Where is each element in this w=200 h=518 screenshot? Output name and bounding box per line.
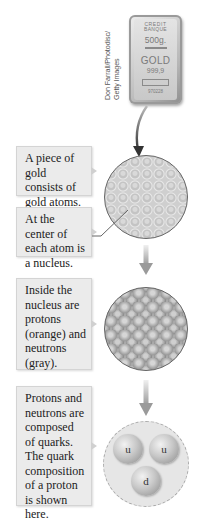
down-arrow-icon [139,380,153,416]
gold-bar-metal: GOLD [134,56,177,66]
gold-bar-weight: 500g. [134,36,177,45]
proton-circle: u u d [103,421,189,507]
gold-bar-text-line2: BANQUE [134,27,177,32]
gold-bar-rule [145,47,167,49]
caption-text: A piece of gold consists of gold atoms. [25,151,81,209]
down-arrow-icon [139,245,153,275]
caption-text: Protons and neutrons are composed of qua… [25,391,84,518]
caption-text: Inside the nucleus are protons (orange) … [25,283,86,370]
quark-up-2: u [149,434,179,464]
curved-arrow-icon [125,104,155,160]
photo-credit-line1: Don Farrall/Photodisc/ [103,0,112,100]
caption-text: At the center of each atom is a nucleus. [25,212,85,270]
quark-down: d [131,466,161,496]
quark-up-1: u [113,434,143,464]
gold-bar-purity: 999,9 [134,67,177,74]
photo-credit-line2: Getty Images [112,0,121,100]
nucleus-circle [104,287,188,371]
photo-credit: Don Farrall/Photodisc/ Getty Images [103,0,125,100]
gold-bar-image: CREDIT BANQUE 500g. GOLD 999,9 970228 [129,15,182,104]
caption-box-protons-neutrons: Inside the nucleus are protons (orange) … [16,278,92,370]
caption-box-quarks: Protons and neutrons are composed of qua… [16,386,92,506]
pointer-line [92,208,132,240]
gold-bar-serial: 970228 [134,90,177,95]
gold-bar-stamp [142,79,169,86]
caption-box-nucleus: At the center of each atom is a nucleus. [16,207,92,257]
caption-box-gold-atoms: A piece of gold consists of gold atoms. [16,146,92,196]
